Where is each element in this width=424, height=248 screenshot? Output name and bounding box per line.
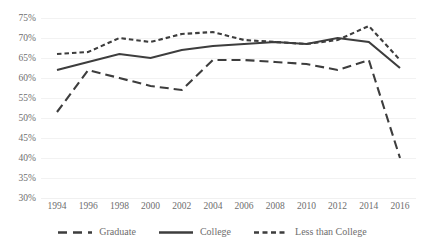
y-axis-tick-label: 55% (0, 93, 36, 103)
x-axis-tick-label: 2000 (134, 200, 168, 212)
legend-label: Graduate (99, 226, 136, 238)
y-axis-tick-label: 30% (0, 193, 36, 203)
gridline (41, 198, 416, 199)
y-axis-tick-label: 70% (0, 33, 36, 43)
series-line-graduate (57, 60, 400, 158)
series-group (41, 18, 416, 198)
x-axis: 1994199619982000200220042006200820102012… (41, 200, 416, 216)
x-axis-tick-label: 2004 (196, 200, 230, 212)
legend-item-graduate[interactable]: Graduate (57, 226, 136, 238)
x-axis-tick-label: 2002 (165, 200, 199, 212)
x-axis-tick-label: 2008 (258, 200, 292, 212)
legend-label: College (200, 226, 231, 238)
x-axis-tick-label: 2010 (290, 200, 324, 212)
legend-item-college[interactable]: College (158, 226, 231, 238)
x-axis-tick-label: 1996 (71, 200, 105, 212)
y-axis-tick-label: 35% (0, 173, 36, 183)
x-axis-tick-label: 1998 (102, 200, 136, 212)
legend-swatch-short-dash (253, 227, 289, 238)
y-axis: 75%70%65%60%55%50%45%40%35%30% (0, 0, 40, 248)
plot-area (41, 18, 416, 198)
legend-swatch-solid (158, 227, 194, 238)
y-axis-tick-label: 40% (0, 153, 36, 163)
chart-legend: GraduateCollegeLess than College (0, 222, 424, 242)
x-axis-tick-label: 2012 (321, 200, 355, 212)
x-axis-tick-label: 2006 (227, 200, 261, 212)
y-axis-tick-label: 75% (0, 13, 36, 23)
legend-item-less-than-college[interactable]: Less than College (253, 226, 367, 238)
x-axis-tick-label: 1994 (40, 200, 74, 212)
y-axis-tick-label: 60% (0, 73, 36, 83)
x-axis-tick-label: 2016 (383, 200, 417, 212)
y-axis-tick-label: 50% (0, 113, 36, 123)
y-axis-tick-label: 45% (0, 133, 36, 143)
legend-swatch-long-dash (57, 227, 93, 238)
x-axis-tick-label: 2014 (352, 200, 386, 212)
legend-label: Less than College (295, 226, 367, 238)
line-chart: 75%70%65%60%55%50%45%40%35%30% 199419961… (0, 0, 424, 248)
series-line-less-than-college (57, 26, 400, 60)
y-axis-tick-label: 65% (0, 53, 36, 63)
